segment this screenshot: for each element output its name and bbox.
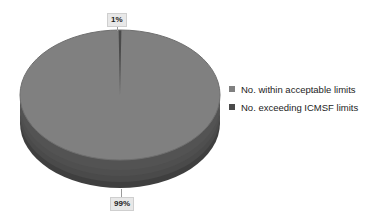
pie-graphic <box>0 0 235 220</box>
legend-item-label: No. within acceptable limits <box>241 84 356 95</box>
legend-swatch-icon <box>229 104 235 110</box>
legend-item-label: No. exceeding ICMSF limits <box>241 102 358 113</box>
legend-item-exceeding-icmsf-limits[interactable]: No. exceeding ICMSF limits <box>229 98 385 116</box>
chart-legend: No. within acceptable limits No. exceedi… <box>229 80 385 116</box>
pie-svg <box>0 0 235 220</box>
legend-swatch-icon <box>229 86 235 92</box>
data-label-within-acceptable-limits: 99% <box>110 197 134 211</box>
pie-chart: 1% 99% No. within acceptable limits No. … <box>0 0 385 220</box>
legend-item-within-acceptable-limits[interactable]: No. within acceptable limits <box>229 80 385 98</box>
leader-line-bottom <box>121 189 122 197</box>
data-label-exceeding-icmsf-limits: 1% <box>107 13 127 27</box>
